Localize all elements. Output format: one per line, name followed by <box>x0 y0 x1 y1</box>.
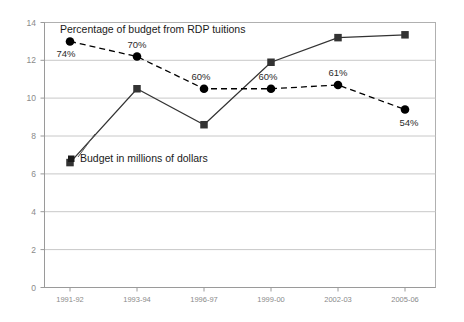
data-label-percentage: 60% <box>258 71 278 82</box>
data-point-budget <box>133 85 141 93</box>
y-tick-label: 4 <box>31 207 36 217</box>
y-tick-label: 6 <box>31 169 36 179</box>
x-tick-label: 1996-97 <box>190 295 218 304</box>
data-point-percentage <box>401 105 410 114</box>
y-tick-label: 0 <box>31 283 36 293</box>
data-point-percentage <box>133 52 142 61</box>
data-label-percentage: 54% <box>399 117 419 128</box>
chart-svg: 0 2 4 6 8 10 12 14 1991-92 1993-94 1996-… <box>0 0 464 322</box>
x-tick-label: 2002-03 <box>324 295 352 304</box>
data-label-percentage: 60% <box>191 71 211 82</box>
y-tick-label: 2 <box>31 245 36 255</box>
y-tick-label: 14 <box>27 18 37 28</box>
data-label-percentage: 61% <box>328 67 348 78</box>
x-tick-label: 1993-94 <box>123 295 151 304</box>
data-point-budget <box>200 121 208 129</box>
annotation-budget-series: Budget in millions of dollars <box>80 152 208 164</box>
data-point-percentage <box>200 84 209 93</box>
data-point-budget <box>334 34 342 42</box>
chart-figure: 0 2 4 6 8 10 12 14 1991-92 1993-94 1996-… <box>0 0 464 322</box>
x-tick-label: 1999-00 <box>257 295 285 304</box>
annotation-percentage-series: Percentage of budget from RDP tuitions <box>60 23 245 35</box>
y-tick-label: 10 <box>27 93 37 103</box>
data-label-percentage: 74% <box>56 48 76 59</box>
data-point-percentage <box>267 84 276 93</box>
data-point-budget <box>401 31 409 39</box>
x-tick-label: 1991-92 <box>56 295 84 304</box>
y-tick-label: 12 <box>27 55 37 65</box>
data-point-budget <box>267 59 275 67</box>
data-label-percentage: 70% <box>127 39 147 50</box>
annotation-budget-square-icon <box>68 156 75 163</box>
y-tick-label: 8 <box>31 131 36 141</box>
x-tick-label: 2005-06 <box>391 295 419 304</box>
data-point-percentage <box>334 81 343 90</box>
data-point-percentage <box>66 37 75 46</box>
